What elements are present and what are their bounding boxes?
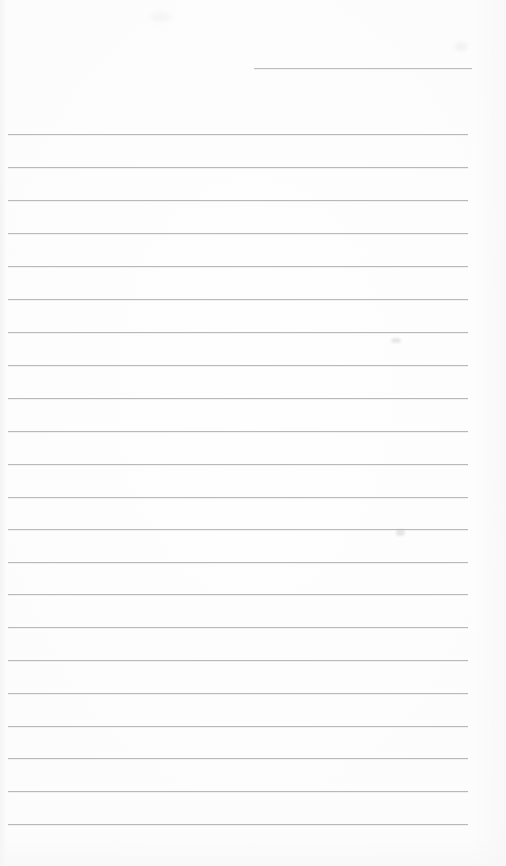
writing-line[interactable] [8, 299, 468, 300]
writing-line[interactable] [8, 758, 468, 759]
scan-artifact-top-right [454, 42, 468, 51]
date-line[interactable] [254, 68, 472, 69]
writing-line[interactable] [8, 791, 468, 792]
writing-line[interactable] [8, 365, 468, 366]
writing-line[interactable] [8, 562, 468, 563]
writing-line[interactable] [8, 693, 468, 694]
writing-line[interactable] [8, 332, 468, 333]
writing-line[interactable] [8, 529, 468, 530]
page-edge-shading-bottom [0, 836, 506, 866]
page-edge-shading-right [472, 0, 506, 866]
writing-line[interactable] [8, 824, 468, 825]
writing-line[interactable] [8, 594, 468, 595]
scan-smudge-upper [391, 338, 401, 343]
page-edge-shading-left [0, 0, 7, 866]
writing-line[interactable] [8, 200, 468, 201]
scan-smudge-lower [396, 529, 405, 536]
scan-artifact-top [150, 12, 172, 22]
writing-line[interactable] [8, 464, 468, 465]
writing-line[interactable] [8, 627, 468, 628]
ruled-page [0, 0, 506, 866]
writing-line[interactable] [8, 167, 468, 168]
paper-texture [0, 0, 506, 866]
writing-line[interactable] [8, 266, 468, 267]
writing-line[interactable] [8, 431, 468, 432]
writing-line[interactable] [8, 134, 468, 135]
writing-line[interactable] [8, 497, 468, 498]
writing-line[interactable] [8, 660, 468, 661]
writing-line[interactable] [8, 233, 468, 234]
writing-line[interactable] [8, 726, 468, 727]
writing-line[interactable] [8, 398, 468, 399]
